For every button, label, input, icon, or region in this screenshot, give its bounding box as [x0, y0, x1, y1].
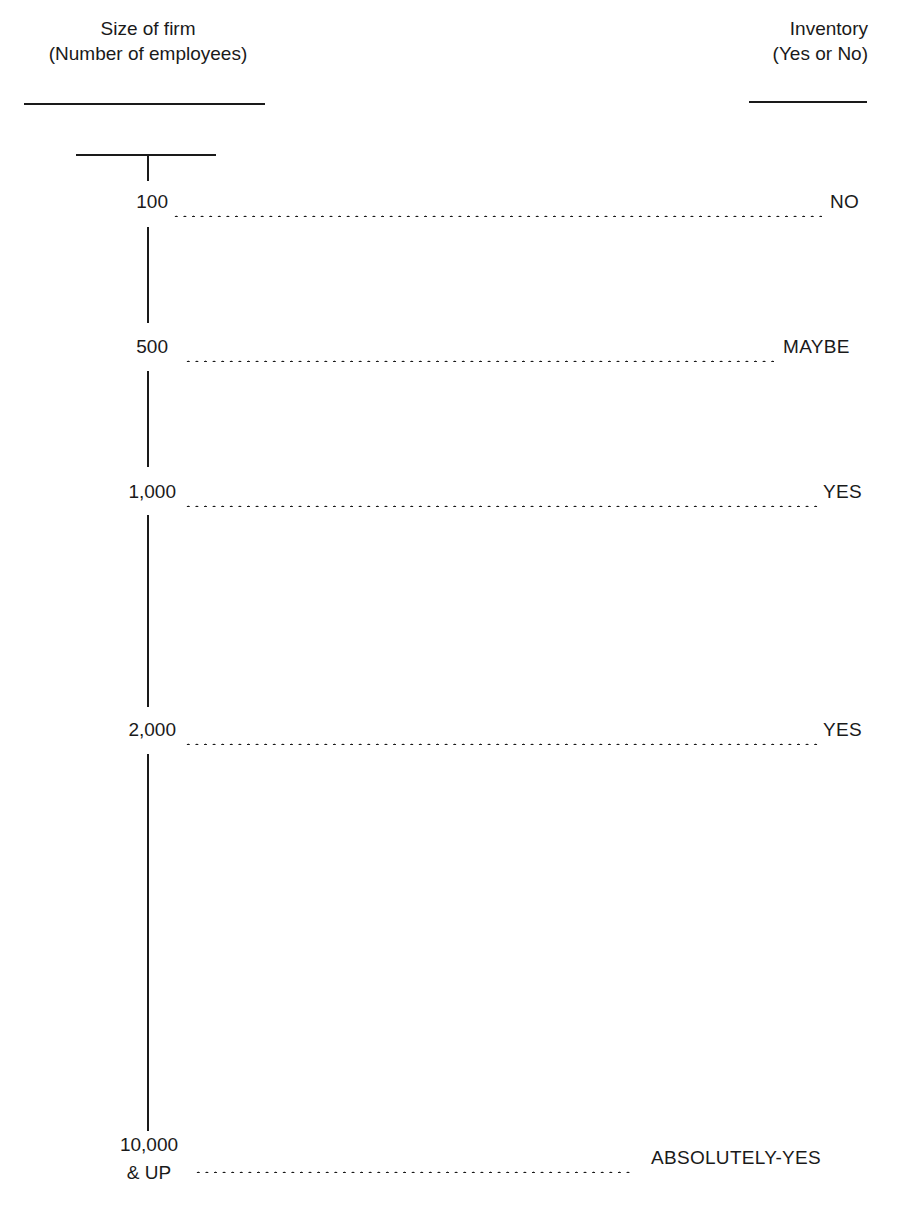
scale-row-2000: 2,000 YES [0, 715, 904, 745]
inventory-answer: YES [823, 477, 862, 507]
leader-dots [184, 332, 774, 362]
right-column-header: Inventory (Yes or No) [773, 16, 868, 66]
size-label: 10,000 & UP [104, 1131, 194, 1187]
leader-dots [194, 1143, 634, 1173]
right-header-subtitle: (Yes or No) [773, 41, 868, 66]
scale-axis-segment [147, 371, 149, 467]
scale-row-500: 500 MAYBE [0, 332, 904, 362]
inventory-answer: ABSOLUTELY-YES [651, 1143, 821, 1173]
scale-row-1000: 1,000 YES [0, 477, 904, 507]
right-header-underline [749, 101, 867, 103]
left-header-title: Size of firm [0, 16, 296, 41]
scale-axis-segment [147, 515, 149, 707]
size-label: 100 [100, 187, 168, 217]
size-label: 2,000 [90, 715, 176, 745]
inventory-answer: YES [823, 715, 862, 745]
leader-dots [172, 187, 822, 217]
left-header-subtitle: (Number of employees) [0, 41, 296, 66]
size-label: 1,000 [90, 477, 176, 507]
size-label-line2: & UP [104, 1159, 194, 1187]
scale-row-10000-and-up: 10,000 & UP ABSOLUTELY-YES [0, 1131, 904, 1191]
inventory-answer: MAYBE [783, 332, 850, 362]
left-column-header: Size of firm (Number of employees) [0, 16, 296, 66]
right-header-title: Inventory [773, 16, 868, 41]
scale-row-100: 100 NO [0, 187, 904, 217]
size-label: 500 [100, 332, 168, 362]
scale-top-cap [76, 154, 216, 156]
inventory-answer: NO [830, 187, 859, 217]
leader-dots [184, 477, 818, 507]
scale-axis-segment [147, 155, 149, 181]
scale-axis-segment [147, 227, 149, 323]
scale-axis-segment [147, 754, 149, 1131]
left-header-underline [24, 103, 265, 105]
size-label-line1: 10,000 [104, 1131, 194, 1159]
leader-dots [184, 715, 818, 745]
